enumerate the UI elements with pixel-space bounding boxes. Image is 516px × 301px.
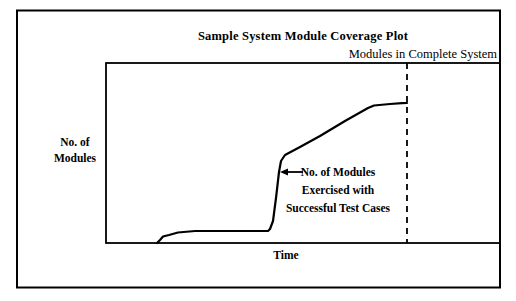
x-axis-label: Time [273, 249, 298, 261]
y-axis-label-line-2: Modules [54, 152, 97, 164]
annotation-line-2: Exercised with [302, 184, 375, 196]
page-title: Sample System Module Coverage Plot [198, 29, 409, 43]
reference-line-label: Modules in Complete System [349, 47, 498, 61]
y-axis-label-line-1: No. of [60, 136, 90, 148]
figure-background [0, 0, 516, 301]
annotation-line-3: Successful Test Cases [286, 202, 391, 214]
coverage-plot-figure: Sample System Module Coverage Plot Modul… [0, 0, 516, 301]
coverage-plot-svg: Sample System Module Coverage Plot Modul… [0, 0, 516, 301]
annotation-line-1: No. of Modules [301, 166, 376, 178]
